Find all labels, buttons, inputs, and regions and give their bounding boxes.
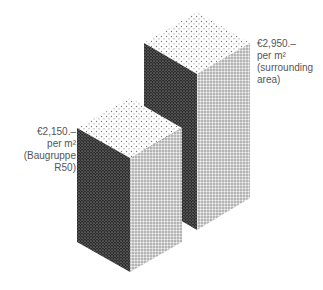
block-baugruppe-r50 [77, 98, 182, 272]
baugruppe-price: €2,150.– [0, 126, 76, 138]
baugruppe-price-label: €2,150.– per m² (Baugruppe R50) [0, 126, 76, 174]
baugruppe-desc-2: R50) [0, 162, 76, 174]
tall-block-right-face [197, 43, 250, 230]
surrounding-unit: per m² [257, 50, 323, 62]
price-comparison-diagram: €2,150.– per m² (Baugruppe R50) €2,950.–… [0, 0, 323, 290]
surrounding-desc-2: area) [257, 74, 323, 86]
surrounding-price: €2,950.– [257, 38, 323, 50]
baugruppe-desc-1: (Baugruppe [0, 150, 76, 162]
surrounding-desc-1: (surrounding [257, 62, 323, 74]
baugruppe-unit: per m² [0, 138, 76, 150]
surrounding-price-label: €2,950.– per m² (surrounding area) [257, 38, 323, 86]
